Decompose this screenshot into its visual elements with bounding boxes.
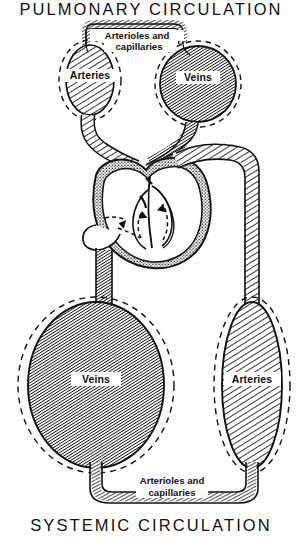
systemic-circulation-title: SYSTEMIC CIRCULATION bbox=[30, 516, 272, 534]
circulation-diagram: PULMONARY CIRCULATION SYSTEMIC CIRCULATI… bbox=[0, 0, 302, 537]
pulmonary-veins-label: Veins bbox=[176, 71, 220, 84]
pulmonary-capillary-label: Arterioles and capillaries bbox=[90, 30, 184, 52]
systemic-capillary-label-line2: capillaries bbox=[149, 487, 196, 498]
systemic-arteries-label-text: Arteries bbox=[232, 373, 273, 385]
systemic-veins-label: Veins bbox=[71, 372, 121, 386]
pulmonary-veins-label-text: Veins bbox=[184, 71, 212, 83]
systemic-arteries-label: Arteries bbox=[224, 372, 281, 386]
pulmonary-circulation-title: PULMONARY CIRCULATION bbox=[19, 0, 282, 18]
systemic-veins-label-text: Veins bbox=[82, 373, 110, 385]
systemic-capillary-label: Arterioles and capillaries bbox=[124, 474, 220, 498]
pulmonary-capillary-label-line2: capillaries bbox=[116, 41, 163, 52]
pulmonary-arteries-label-text: Arteries bbox=[70, 69, 111, 81]
diagram-canvas: PULMONARY CIRCULATION SYSTEMIC CIRCULATI… bbox=[0, 0, 302, 537]
pulmonary-arteries-label: Arteries bbox=[63, 69, 118, 82]
pulmonary-capillary-label-line1: Arterioles and bbox=[105, 30, 170, 41]
systemic-capillary-label-line1: Arterioles and bbox=[140, 475, 205, 486]
